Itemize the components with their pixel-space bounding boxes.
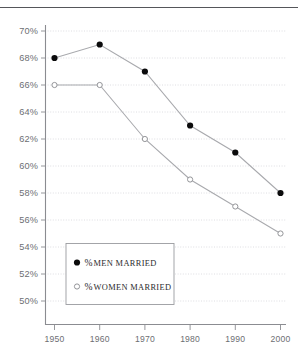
- legend-box: [66, 244, 174, 305]
- series-line-women-married: [55, 85, 281, 234]
- data-point-women-1990: [233, 204, 238, 209]
- legend-marker-filled-circle-icon: [74, 259, 80, 265]
- y-tick-label-58: 58%: [19, 188, 38, 198]
- legend-marker-open-circle-icon: [74, 284, 79, 289]
- x-tick-label-1950: 1950: [45, 334, 65, 344]
- y-tick-label-60: 60%: [19, 161, 38, 171]
- chart-figure: 70% 68% 66% 64% 62% 60% 58% 56% 54% 52% …: [0, 0, 298, 362]
- data-point-men-1990: [232, 149, 238, 155]
- series-markers-men-married: [51, 41, 283, 196]
- x-tick-label-1970: 1970: [135, 334, 155, 344]
- legend-item-women-married[interactable]: % WOMEN MARRIED: [74, 281, 171, 292]
- y-tick-label-70: 70%: [19, 26, 38, 36]
- data-point-men-1960: [97, 41, 103, 47]
- legend-percent-glyph-women: %: [85, 281, 93, 292]
- data-point-men-1970: [142, 68, 148, 74]
- legend-percent-glyph-men: %: [85, 257, 93, 268]
- series-line-men-married: [55, 45, 281, 194]
- data-point-women-1970: [142, 136, 147, 141]
- x-tick-label-1990: 1990: [225, 334, 245, 344]
- y-tick-label-64: 64%: [19, 107, 38, 117]
- x-tick-label-1980: 1980: [180, 334, 200, 344]
- data-point-men-1950: [51, 55, 57, 61]
- x-tick-label-1960: 1960: [90, 334, 110, 344]
- x-tick-label-2000: 2000: [271, 334, 291, 344]
- data-point-women-1950: [52, 82, 57, 87]
- legend-label-men-married: MEN MARRIED: [94, 259, 157, 268]
- legend-item-men-married[interactable]: % MEN MARRIED: [74, 257, 157, 268]
- married-percentage-line-chart: 70% 68% 66% 64% 62% 60% 58% 56% 54% 52% …: [0, 0, 298, 362]
- x-axis: [45, 325, 286, 331]
- y-tick-label-68: 68%: [19, 53, 38, 63]
- y-tick-label-56: 56%: [19, 215, 38, 225]
- data-point-women-1960: [97, 82, 102, 87]
- y-axis: [41, 25, 46, 325]
- y-tick-label-50: 50%: [19, 296, 38, 306]
- chart-legend: % MEN MARRIED % WOMEN MARRIED: [66, 244, 174, 305]
- y-tick-labels: 70% 68% 66% 64% 62% 60% 58% 56% 54% 52% …: [19, 26, 38, 306]
- y-tick-label-54: 54%: [19, 242, 38, 252]
- data-point-men-1980: [187, 122, 193, 128]
- data-point-women-2000: [278, 231, 283, 236]
- y-tick-label-52: 52%: [19, 269, 38, 279]
- data-point-men-2000: [277, 190, 283, 196]
- legend-label-women-married: WOMEN MARRIED: [94, 283, 172, 292]
- y-tick-label-62: 62%: [19, 134, 38, 144]
- data-point-women-1980: [188, 177, 193, 182]
- x-tick-labels: 1950 1960 1970 1980 1990 2000: [45, 334, 291, 344]
- y-tick-label-66: 66%: [19, 80, 38, 90]
